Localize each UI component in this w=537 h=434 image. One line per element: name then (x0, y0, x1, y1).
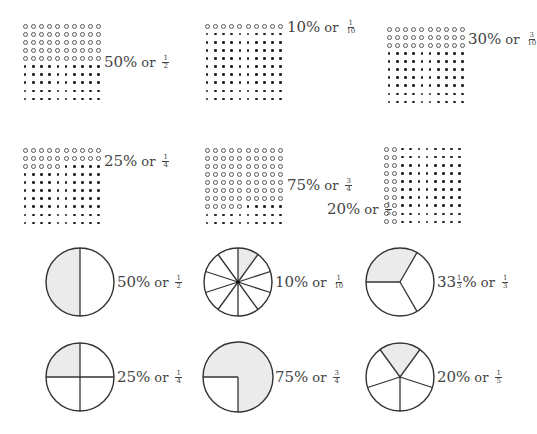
filled-dot-icon (81, 73, 84, 76)
filled-dot-icon (442, 196, 445, 199)
pie-half-circle (44, 246, 116, 318)
open-circle-icon (80, 40, 85, 45)
filled-dot-icon (255, 205, 258, 208)
filled-dot-icon (32, 181, 35, 184)
grid-cell (390, 218, 398, 226)
percent-text: 50% (104, 53, 137, 71)
open-circle-icon (237, 148, 242, 153)
open-circle-icon (47, 32, 52, 37)
fraction-denominator: 10 (333, 283, 344, 290)
percent-sign: % (463, 273, 477, 291)
grid-cell (448, 145, 456, 153)
grid-cell (407, 177, 415, 185)
open-circle-icon (221, 164, 226, 169)
filled-dot-icon (396, 60, 399, 63)
grid-cell (54, 79, 62, 87)
grid-cell (260, 162, 268, 170)
grid-cell (398, 218, 406, 226)
filled-dot-icon (396, 84, 399, 87)
open-circle-icon (31, 32, 36, 37)
filled-dot-icon (206, 98, 209, 101)
grid-cell (29, 154, 37, 162)
grid-cell (277, 54, 285, 62)
grid-cell (415, 210, 423, 218)
filled-dot-icon (255, 222, 258, 225)
filled-dot-icon (40, 189, 43, 192)
grid-cell (260, 22, 268, 30)
filled-dot-icon (453, 101, 456, 104)
grid-cell (54, 22, 62, 30)
filled-dot-icon (81, 214, 84, 217)
grid-cell (390, 185, 398, 193)
grid-cell (21, 38, 29, 46)
shaded-slice (46, 248, 80, 316)
grid-cell (236, 178, 244, 186)
filled-dot-icon (89, 222, 92, 225)
filled-dot-icon (401, 196, 404, 199)
filled-dot-icon (412, 76, 415, 79)
open-circle-icon (229, 156, 234, 161)
filled-dot-icon (239, 49, 242, 52)
filled-dot-icon (48, 65, 51, 68)
filled-dot-icon (434, 164, 437, 167)
grid-cell (451, 49, 459, 57)
grid-cell (236, 38, 244, 46)
grid-cell (431, 185, 439, 193)
grid-cell (269, 71, 277, 79)
filled-dot-icon (421, 52, 424, 55)
grid-cell (78, 54, 86, 62)
grid-cell (70, 46, 78, 54)
filled-dot-icon (271, 49, 274, 52)
open-circle-icon (419, 43, 424, 48)
grid-cell (459, 90, 467, 98)
grid-cell (451, 57, 459, 65)
filled-dot-icon (442, 204, 445, 207)
open-circle-icon (229, 204, 234, 209)
grid-cell (260, 186, 268, 194)
filled-dot-icon (24, 197, 27, 200)
filled-dot-icon (73, 197, 76, 200)
grid-cell (244, 170, 252, 178)
grid-30-hundred-grid (385, 25, 467, 106)
or-text: or (141, 55, 155, 70)
fraction: 110 (345, 20, 356, 35)
grid-cell (401, 74, 409, 82)
grid-cell (260, 46, 268, 54)
grid-cell (269, 95, 277, 103)
grid-cell (277, 211, 285, 219)
center-dot-icon (236, 280, 239, 283)
filled-dot-icon (57, 98, 60, 101)
filled-dot-icon (48, 98, 51, 101)
open-circle-icon (23, 56, 28, 61)
grid-cell (423, 194, 431, 202)
open-circle-icon (262, 148, 267, 153)
filled-dot-icon (24, 90, 27, 93)
filled-dot-icon (263, 33, 266, 36)
open-circle-icon (246, 180, 251, 185)
grid-cell (70, 162, 78, 170)
grid-cell (418, 25, 426, 33)
grid-cell (203, 79, 211, 87)
pie-three-quarters-circle (201, 340, 275, 414)
grid-cell (211, 46, 219, 54)
open-circle-icon (96, 40, 101, 45)
grid-cell (54, 186, 62, 194)
open-circle-icon (419, 27, 424, 32)
filled-dot-icon (97, 81, 100, 84)
filled-dot-icon (434, 196, 437, 199)
open-circle-icon (80, 48, 85, 53)
grid-cell (29, 203, 37, 211)
open-circle-icon (213, 164, 218, 169)
pie-fifth-circle (364, 341, 436, 413)
grid-cell (228, 30, 236, 38)
grid-cell (252, 211, 260, 219)
grid-cell (236, 186, 244, 194)
filled-dot-icon (279, 33, 282, 36)
grid-cell (21, 186, 29, 194)
filled-dot-icon (421, 60, 424, 63)
filled-dot-icon (263, 41, 266, 44)
open-circle-icon (64, 32, 69, 37)
filled-dot-icon (57, 173, 60, 176)
filled-dot-icon (404, 93, 407, 96)
grid-cell (78, 162, 86, 170)
